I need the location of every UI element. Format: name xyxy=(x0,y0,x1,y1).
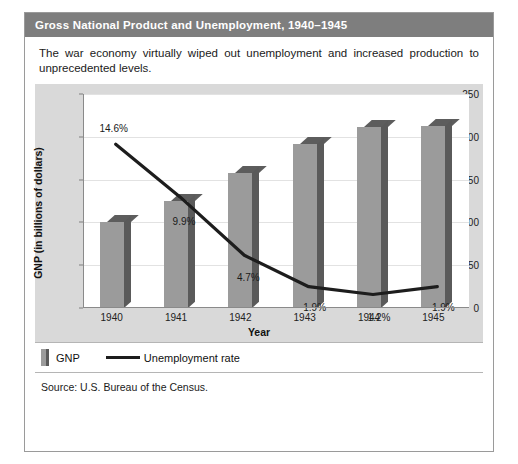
x-tick-label: 1944 xyxy=(358,312,380,323)
figure-panel: Gross National Product and Unemployment,… xyxy=(24,12,494,452)
x-axis-line xyxy=(83,307,469,308)
data-label: 14.6% xyxy=(99,123,127,134)
legend-item-gnp: GNP xyxy=(41,349,80,366)
bar-swatch-icon xyxy=(41,349,49,366)
x-tick-label: 1943 xyxy=(294,312,316,323)
x-axis-label: Year xyxy=(35,326,483,338)
x-tick-label: 1941 xyxy=(165,312,187,323)
line-swatch-icon xyxy=(106,356,140,359)
plot-area: 14.6%9.9%4.7%1.9%1.2%1.9% xyxy=(83,94,469,308)
x-tick-label: 1942 xyxy=(229,312,251,323)
figure-caption: The war economy virtually wiped out unem… xyxy=(25,37,493,84)
chart-panel: GNP (in billions of dollars) 05010015020… xyxy=(35,84,483,342)
chart-legend: GNP Unemployment rate xyxy=(35,342,483,372)
data-label: 4.7% xyxy=(237,272,260,283)
data-label: 9.9% xyxy=(173,215,196,226)
legend-item-unemployment: Unemployment rate xyxy=(106,352,240,364)
figure-title: Gross National Product and Unemployment,… xyxy=(25,13,493,37)
legend-label-unemployment: Unemployment rate xyxy=(144,352,240,364)
unemployment-line xyxy=(83,94,469,308)
y-axis-label-text: GNP (in billions of dollars) xyxy=(32,147,44,279)
figure-source: Source: U.S. Bureau of the Census. xyxy=(35,372,483,393)
legend-label-gnp: GNP xyxy=(56,352,80,364)
y-axis-line xyxy=(83,94,84,308)
x-tick-label: 1945 xyxy=(422,312,444,323)
y-axis-label: GNP (in billions of dollars) xyxy=(29,84,47,342)
x-tick-label: 1940 xyxy=(101,312,123,323)
